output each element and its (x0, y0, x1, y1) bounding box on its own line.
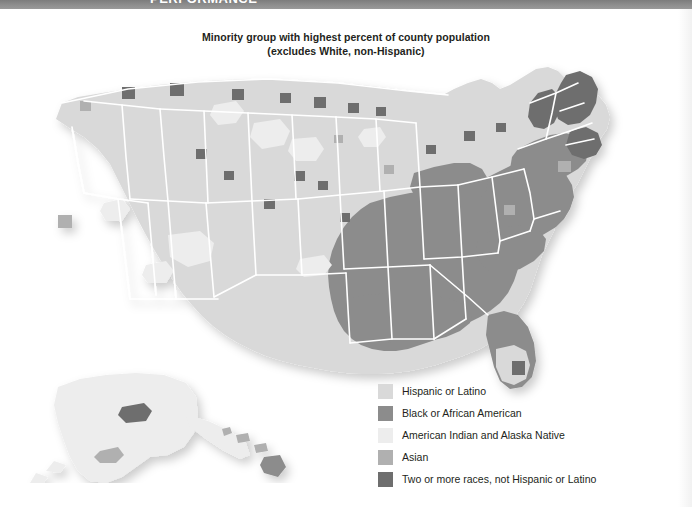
legend-label-hispanic: Hispanic or Latino (402, 385, 486, 397)
alaska-landmass (54, 373, 198, 483)
florida-two-or-more-county (512, 361, 525, 375)
ai-county-nevada (100, 199, 130, 221)
figure-panel: Minority group with highest percent of c… (0, 9, 692, 507)
legend-item-black-african-american[interactable]: Black or African American (378, 402, 668, 424)
legend-item-hispanic[interactable]: Hispanic or Latino (378, 380, 668, 402)
two-or-more-county-16 (496, 123, 506, 132)
asian-county-seattle (80, 101, 91, 111)
map-legend: Hispanic or Latino Black or African Amer… (378, 380, 668, 490)
asian-county-chicago (384, 165, 394, 174)
region-florida (486, 311, 536, 389)
two-or-more-county-7 (376, 107, 386, 116)
legend-item-two-or-more-races[interactable]: Two or more races, not Hispanic or Latin… (378, 468, 668, 490)
figure-right-shadow (678, 9, 692, 507)
legend-item-asian[interactable]: Asian (378, 446, 668, 468)
legend-label-asian: Asian (402, 451, 428, 463)
two-or-more-county-4 (280, 93, 291, 103)
screenshot-root: PERFORMANCE Minority group with highest … (0, 0, 692, 507)
two-or-more-county-12 (224, 171, 234, 180)
alaska-aleutian-chain (30, 461, 66, 483)
legend-swatch-black-african-american-icon (378, 406, 393, 421)
figure-title-line-1: Minority group with highest percent of c… (0, 31, 692, 45)
app-header-bar: PERFORMANCE (0, 0, 692, 9)
hawaii-maui (254, 443, 268, 453)
legend-label-black-african-american: Black or African American (402, 407, 522, 419)
app-header-title: PERFORMANCE (150, 0, 257, 6)
two-or-more-county-5 (314, 97, 326, 108)
legend-swatch-hispanic-icon (378, 384, 393, 399)
asian-county-nyc (558, 161, 571, 172)
two-or-more-county-14 (426, 145, 436, 154)
legend-label-american-indian: American Indian and Alaska Native (402, 429, 565, 441)
hawaii-oahu (236, 433, 250, 443)
asian-county-bay-area (58, 215, 72, 228)
app-header-gradient (0, 0, 692, 9)
legend-swatch-two-or-more-races-icon (378, 472, 393, 487)
inset-alaska (30, 373, 250, 483)
two-or-more-county-9 (318, 181, 328, 190)
two-or-more-county-3 (232, 89, 244, 100)
legend-swatch-american-indian-icon (378, 428, 393, 443)
legend-label-two-or-more-races: Two or more races, not Hispanic or Latin… (402, 473, 596, 485)
two-or-more-county-6 (348, 103, 359, 113)
legend-swatch-asian-icon (378, 450, 393, 465)
asian-county-nova (504, 205, 515, 215)
two-or-more-county-15 (464, 131, 475, 141)
legend-item-american-indian[interactable]: American Indian and Alaska Native (378, 424, 668, 446)
asian-county-twincities (334, 135, 343, 143)
hawaii-bigisle (260, 455, 286, 477)
